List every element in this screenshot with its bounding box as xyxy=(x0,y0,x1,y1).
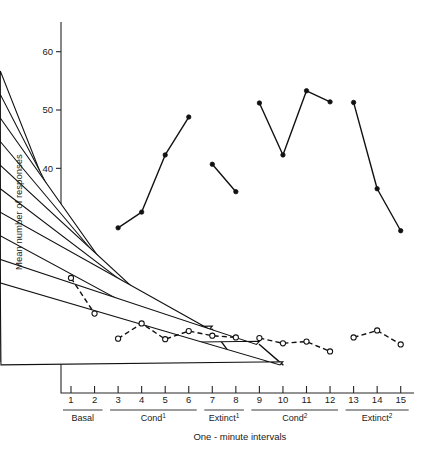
data-point-filled-circle xyxy=(116,226,120,230)
data-point-open-circle xyxy=(116,336,121,341)
x-tick-label: 9 xyxy=(257,394,262,405)
x-tick-label: 7 xyxy=(210,394,215,405)
data-point-open-circle xyxy=(304,339,309,344)
data-point-filled-circle xyxy=(304,89,308,93)
phase-label: Extinct2 xyxy=(362,412,393,423)
data-point-filled-circle xyxy=(187,115,191,119)
phase-label: Extinct1 xyxy=(209,412,240,423)
series-line xyxy=(259,91,330,155)
phase-superscript: 1 xyxy=(162,412,166,419)
data-point-open-circle xyxy=(351,335,356,340)
data-point-open-circle xyxy=(163,337,168,342)
data-point-open-circle xyxy=(375,328,380,333)
series-line xyxy=(118,117,189,228)
x-tick-label: 4 xyxy=(139,394,144,405)
x-tick-label: 1 xyxy=(68,394,73,405)
x-tick-label: 14 xyxy=(372,394,383,405)
y-axis-title: Mean number of responses xyxy=(13,154,24,270)
x-tick-label: 13 xyxy=(348,394,359,405)
data-point-filled-circle xyxy=(234,189,238,193)
data-point-filled-circle xyxy=(210,162,214,166)
line-chart: 102030405060123456789101112131415 BasalC… xyxy=(0,0,423,464)
data-point-filled-circle xyxy=(281,153,285,157)
data-point-open-circle xyxy=(398,342,403,347)
data-point-open-circle xyxy=(210,333,215,338)
y-tick-label: 50 xyxy=(42,104,53,115)
data-point-filled-circle xyxy=(257,101,261,105)
data-point-filled-circle xyxy=(399,229,403,233)
x-tick-label: 3 xyxy=(115,394,120,405)
data-point-open-circle xyxy=(257,335,262,340)
x-tick-label: 10 xyxy=(278,394,289,405)
series-line xyxy=(212,164,236,191)
data-point-open-circle xyxy=(92,311,97,316)
figure-container: 102030405060123456789101112131415 BasalC… xyxy=(0,0,423,464)
phase-superscript: 2 xyxy=(389,412,393,419)
phase-annotations: BasalCond1Extinct1Cond2Extinct2 xyxy=(63,410,409,423)
data-point-open-circle xyxy=(233,335,238,340)
x-tick-label: 5 xyxy=(163,394,168,405)
phase-label: Basal xyxy=(72,413,95,423)
phase-superscript: 2 xyxy=(304,412,308,419)
series-line xyxy=(354,102,401,230)
data-point-filled-circle xyxy=(328,100,332,104)
data-point-open-circle xyxy=(280,341,285,346)
data-point-filled-circle xyxy=(351,100,355,104)
phase-superscript: 1 xyxy=(236,412,240,419)
phase-label: Cond1 xyxy=(141,412,167,423)
data-point-open-circle xyxy=(139,321,144,326)
phase-label: Cond2 xyxy=(282,412,308,423)
x-tick-label: 2 xyxy=(92,394,97,405)
series-filled-circle-solid xyxy=(69,89,403,278)
x-axis-title: One - minute intervals xyxy=(193,431,286,442)
x-tick-label: 12 xyxy=(325,394,336,405)
data-point-filled-circle xyxy=(163,153,167,157)
data-point-open-circle xyxy=(68,275,73,280)
data-point-filled-circle xyxy=(139,210,143,214)
x-tick-label: 6 xyxy=(186,394,191,405)
x-tick-label: 11 xyxy=(302,394,312,405)
y-tick-label: 60 xyxy=(42,46,53,57)
series-line xyxy=(259,338,330,351)
data-point-open-circle xyxy=(327,349,332,354)
data-point-open-circle xyxy=(186,328,191,333)
x-tick-label: 15 xyxy=(395,394,406,405)
x-tick-label: 8 xyxy=(233,394,238,405)
y-tick-label: 40 xyxy=(42,163,53,174)
data-point-filled-circle xyxy=(375,187,379,191)
